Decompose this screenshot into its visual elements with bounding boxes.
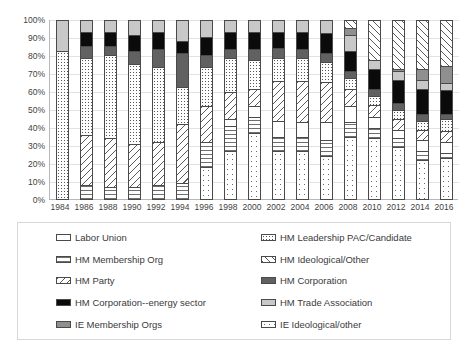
bar-segment-hm_leadership_pac[interactable] bbox=[273, 58, 284, 81]
bar-segment-hm_corporation[interactable] bbox=[225, 49, 236, 58]
bar-segment-hm_corporation[interactable] bbox=[369, 89, 380, 96]
bar-segment-hm_membership_org[interactable] bbox=[153, 185, 164, 199]
bar-segment-hm_trade_association[interactable] bbox=[129, 21, 140, 35]
bar-segment-hm_membership_org[interactable] bbox=[345, 122, 356, 136]
bar-segment-hm_ideological_other[interactable] bbox=[417, 21, 428, 69]
bar-segment-hm_leadership_pac[interactable] bbox=[81, 58, 92, 135]
bar-segment-hm_membership_org[interactable] bbox=[201, 142, 212, 167]
bar-segment-hm_trade_association[interactable] bbox=[345, 35, 356, 51]
legend-item[interactable]: Labor Union bbox=[18, 232, 234, 243]
bar-1992[interactable] bbox=[152, 20, 165, 200]
bar-segment-hm_trade_association[interactable] bbox=[57, 21, 68, 51]
bar-segment-hm_corporation[interactable] bbox=[297, 49, 308, 58]
bar-segment-hm_party[interactable] bbox=[177, 124, 188, 183]
bar-segment-labor[interactable] bbox=[225, 119, 236, 126]
bar-segment-hm_leadership_pac[interactable] bbox=[321, 62, 332, 82]
bar-segment-hm_leadership_pac[interactable] bbox=[369, 96, 380, 105]
legend-item[interactable]: HM Leadership PAC/Candidate bbox=[234, 232, 450, 243]
bar-segment-ie_ideological_other[interactable] bbox=[249, 133, 260, 199]
bar-segment-hm_leadership_pac[interactable] bbox=[297, 58, 308, 81]
bar-segment-hm_ideological_other[interactable] bbox=[441, 21, 452, 66]
bar-segment-hm_corp_energy[interactable] bbox=[105, 32, 116, 46]
bar-segment-hm_corporation[interactable] bbox=[153, 49, 164, 67]
bar-segment-hm_party[interactable] bbox=[201, 106, 212, 142]
bar-segment-hm_party[interactable] bbox=[105, 138, 116, 186]
bar-segment-hm_corp_energy[interactable] bbox=[393, 80, 404, 103]
bar-segment-hm_party[interactable] bbox=[441, 131, 452, 142]
bar-1990[interactable] bbox=[128, 20, 141, 200]
bar-segment-hm_trade_association[interactable] bbox=[249, 21, 260, 32]
bar-1988[interactable] bbox=[104, 20, 117, 200]
bar-segment-hm_party[interactable] bbox=[345, 89, 356, 107]
bar-2000[interactable] bbox=[248, 20, 261, 200]
bar-segment-hm_corporation[interactable] bbox=[105, 46, 116, 55]
bar-segment-ie_membership_orgs[interactable] bbox=[417, 69, 428, 80]
bar-1998[interactable] bbox=[224, 20, 237, 200]
bar-1996[interactable] bbox=[200, 20, 213, 200]
bar-segment-hm_leadership_pac[interactable] bbox=[153, 67, 164, 142]
bar-segment-hm_corporation[interactable] bbox=[177, 53, 188, 87]
bar-segment-ie_ideological_other[interactable] bbox=[225, 151, 236, 199]
bar-segment-hm_corp_energy[interactable] bbox=[225, 32, 236, 50]
bar-segment-hm_trade_association[interactable] bbox=[273, 21, 284, 32]
bar-segment-hm_corp_energy[interactable] bbox=[417, 89, 428, 114]
bar-segment-hm_corp_energy[interactable] bbox=[441, 90, 452, 113]
bar-segment-hm_corp_energy[interactable] bbox=[81, 32, 92, 46]
bar-segment-hm_corporation[interactable] bbox=[201, 55, 212, 67]
bar-segment-hm_membership_org[interactable] bbox=[297, 137, 308, 151]
bar-segment-hm_trade_association[interactable] bbox=[369, 60, 380, 69]
bar-segment-hm_corp_energy[interactable] bbox=[177, 41, 188, 53]
legend-item[interactable]: HM Membership Org bbox=[18, 254, 234, 265]
bar-segment-hm_leadership_pac[interactable] bbox=[105, 55, 116, 139]
bar-segment-hm_membership_org[interactable] bbox=[225, 126, 236, 151]
bar-2016[interactable] bbox=[440, 20, 453, 200]
bar-segment-hm_corp_energy[interactable] bbox=[153, 32, 164, 50]
bar-segment-hm_trade_association[interactable] bbox=[153, 21, 164, 32]
bar-segment-ie_ideological_other[interactable] bbox=[417, 160, 428, 199]
bar-segment-hm_leadership_pac[interactable] bbox=[177, 87, 188, 124]
bar-segment-hm_corporation[interactable] bbox=[129, 51, 140, 63]
bar-segment-hm_party[interactable] bbox=[393, 119, 404, 130]
bar-2014[interactable] bbox=[416, 20, 429, 200]
bar-segment-hm_party[interactable] bbox=[225, 92, 236, 119]
bar-segment-hm_membership_org[interactable] bbox=[273, 137, 284, 151]
bar-segment-hm_corporation[interactable] bbox=[417, 114, 428, 121]
bar-segment-hm_party[interactable] bbox=[273, 81, 284, 120]
bar-segment-ie_membership_orgs[interactable] bbox=[345, 28, 356, 35]
bar-segment-hm_party[interactable] bbox=[153, 142, 164, 185]
bar-segment-hm_trade_association[interactable] bbox=[105, 21, 116, 32]
bar-segment-hm_corporation[interactable] bbox=[81, 46, 92, 58]
bar-segment-hm_party[interactable] bbox=[297, 81, 308, 122]
bar-segment-hm_corporation[interactable] bbox=[249, 49, 260, 60]
bar-segment-labor[interactable] bbox=[441, 142, 452, 153]
bar-segment-hm_leadership_pac[interactable] bbox=[225, 58, 236, 92]
legend-item[interactable]: HM Party bbox=[18, 275, 234, 286]
bar-2010[interactable] bbox=[368, 20, 381, 200]
bar-segment-hm_leadership_pac[interactable] bbox=[441, 119, 452, 131]
bar-2004[interactable] bbox=[296, 20, 309, 200]
bar-segment-hm_leadership_pac[interactable] bbox=[57, 51, 68, 199]
bar-segment-hm_corporation[interactable] bbox=[393, 103, 404, 110]
bar-segment-hm_membership_org[interactable] bbox=[105, 187, 116, 199]
bar-segment-labor[interactable] bbox=[273, 121, 284, 137]
bar-segment-hm_corp_energy[interactable] bbox=[369, 69, 380, 89]
bar-segment-hm_membership_org[interactable] bbox=[321, 140, 332, 156]
bar-segment-labor[interactable] bbox=[297, 122, 308, 136]
bar-segment-ie_ideological_other[interactable] bbox=[393, 147, 404, 199]
bar-1986[interactable] bbox=[80, 20, 93, 200]
bar-segment-ie_ideological_other[interactable] bbox=[273, 151, 284, 199]
bar-2012[interactable] bbox=[392, 20, 405, 200]
bar-segment-hm_party[interactable] bbox=[249, 89, 260, 107]
bar-segment-hm_corp_energy[interactable] bbox=[249, 32, 260, 50]
bar-segment-hm_membership_org[interactable] bbox=[177, 183, 188, 199]
bar-segment-labor[interactable] bbox=[345, 106, 356, 122]
bar-segment-ie_ideological_other[interactable] bbox=[441, 158, 452, 199]
bar-segment-hm_trade_association[interactable] bbox=[321, 21, 332, 33]
bar-segment-hm_trade_association[interactable] bbox=[177, 21, 188, 41]
bar-segment-labor[interactable] bbox=[417, 140, 428, 151]
bar-segment-hm_trade_association[interactable] bbox=[81, 21, 92, 32]
bar-segment-hm_corp_energy[interactable] bbox=[273, 32, 284, 48]
bar-segment-hm_leadership_pac[interactable] bbox=[129, 64, 140, 144]
legend-item[interactable]: HM Trade Association bbox=[234, 297, 450, 308]
bar-segment-hm_ideological_other[interactable] bbox=[369, 21, 380, 60]
